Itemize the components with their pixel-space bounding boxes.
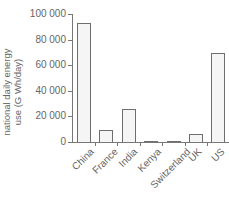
y-tick-label: 80 000 xyxy=(16,34,66,45)
y-tick xyxy=(68,65,72,66)
y-tick xyxy=(68,116,72,117)
y-axis-label-line-1: national daily energy xyxy=(1,32,12,152)
y-tick xyxy=(68,91,72,92)
x-tick xyxy=(162,142,163,146)
y-tick xyxy=(68,40,72,41)
bar-china xyxy=(77,23,91,142)
y-tick-label: 100 000 xyxy=(16,8,66,19)
y-axis xyxy=(72,14,73,143)
y-tick-label: 60 000 xyxy=(16,59,66,70)
x-tick xyxy=(95,142,96,146)
bar-switzerland xyxy=(167,141,181,143)
y-tick xyxy=(68,142,72,143)
bar-us xyxy=(211,53,225,142)
x-tick xyxy=(140,142,141,146)
x-tick-label: UK xyxy=(186,146,204,164)
x-tick-label: US xyxy=(209,146,227,164)
x-tick xyxy=(207,142,208,146)
y-tick-label: 0 xyxy=(16,136,66,147)
x-tick xyxy=(117,142,118,146)
y-tick xyxy=(68,14,72,15)
bar-uk xyxy=(189,134,203,142)
y-tick-label: 40 000 xyxy=(16,85,66,96)
bar-kenya xyxy=(144,141,158,143)
y-tick-label: 20 000 xyxy=(16,110,66,121)
bar-france xyxy=(99,130,113,142)
bar-india xyxy=(122,109,136,142)
